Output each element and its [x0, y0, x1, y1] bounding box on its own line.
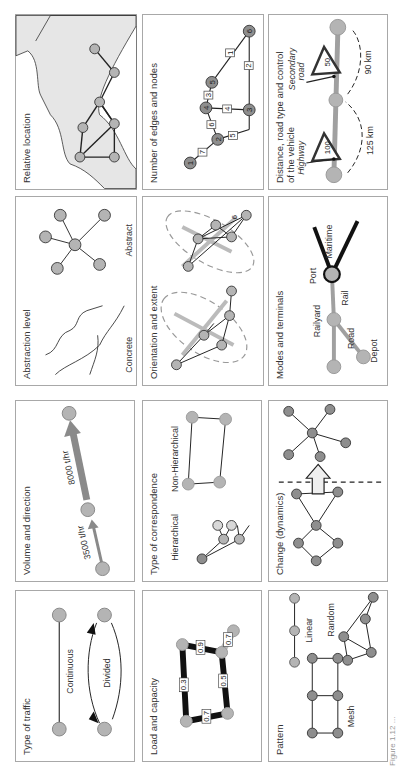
node-label: 4	[202, 105, 211, 110]
railyard-label: Railyard	[312, 305, 322, 338]
load-label: 0.5	[219, 675, 228, 687]
panel-modes-terminals: Modes and terminals Port Maritime Rail R…	[268, 196, 388, 386]
abstract-label: Abstract	[124, 224, 134, 257]
linear-label: Linear	[304, 618, 314, 643]
panel-abstraction-level: Abstraction level Concrete Abstract	[15, 196, 137, 386]
node-label: 5	[208, 80, 217, 85]
load-label: 0.7	[202, 711, 211, 722]
edge-label: 6	[207, 122, 216, 127]
depot-label: Depot	[369, 339, 379, 363]
concrete-road-lines	[46, 306, 125, 375]
secondary-distance: 90 km	[363, 50, 373, 74]
distance-graphics: 125 km 90 km 100 50 Highway Secondary ro…	[269, 15, 387, 189]
maritime-label: Maritime	[324, 225, 334, 259]
panel-volume-direction: Volume and direction 3500 t/hr 8000 t/hr	[15, 400, 135, 582]
panel-distance-road-type: Distance, road type and control of the v…	[268, 14, 388, 190]
svg-text:6: 6	[230, 214, 239, 219]
relative-location-map	[16, 15, 136, 189]
panel-pattern: Pattern Mesh Linear	[268, 590, 388, 762]
panel-load-capacity: Load and capacity 0.3 0.7 0.5 0.9 0.	[142, 590, 262, 762]
secondary-label-2: road	[296, 62, 306, 81]
secondary-speed: 50	[323, 57, 332, 66]
highway-label: Highway	[296, 140, 306, 174]
divided-label: Divided	[102, 658, 112, 688]
figure-caption: Figure 1.12 ...	[388, 717, 397, 766]
hierarchical-label: Hierarchical	[170, 514, 180, 561]
non-hierarchical-label: Non-Hierarchical	[170, 426, 180, 492]
modes-graphics: Port Maritime Rail Railyard Road Depot	[269, 197, 387, 385]
random-label: Random	[326, 603, 336, 636]
node-label: 1	[186, 161, 195, 165]
highway-distance: 125 km	[365, 126, 375, 155]
edge-label: 5	[228, 133, 237, 138]
pattern-graphics: Mesh Linear Random	[269, 591, 387, 761]
load-label: 0.3	[179, 679, 188, 691]
node-label: 2	[214, 137, 223, 141]
secondary-label-1: Secondary	[287, 47, 297, 90]
continuous-label: Continuous	[65, 648, 75, 693]
correspondence-graphics: Hierarchical Non-Hierarchical	[143, 401, 261, 581]
numbered-graph: 7 6 5 4 3 2 1 1 2 3 4 5 6	[143, 15, 263, 189]
edge-label: 4	[223, 106, 232, 111]
node-label: 3	[245, 107, 254, 112]
figure-stage: Relative location Abstractio	[0, 0, 400, 776]
edge-label: 7	[198, 150, 207, 154]
change-arrow-icon	[306, 464, 330, 494]
panel-relative-location: Relative location	[15, 14, 137, 190]
edge-label: 1	[226, 51, 235, 55]
panel-change-dynamics: Change (dynamics)	[268, 400, 388, 582]
panel-type-correspondence: Type of correspondence Hierarchical Non-…	[142, 400, 262, 582]
orientation-graphics: 6	[143, 197, 263, 385]
traffic-graphics: Continuous Divided	[16, 591, 134, 761]
panel-type-of-traffic: Type of traffic Continuous Divided	[15, 590, 135, 762]
port-label: Port	[308, 267, 318, 284]
panel-orientation-extent: Orientation and extent	[142, 196, 264, 386]
volume-graphics: 3500 t/hr 8000 t/hr	[16, 401, 134, 581]
abstraction-graphics: Concrete Abstract	[16, 197, 136, 385]
edge-label: 2	[244, 63, 253, 67]
load-label: 0.9	[196, 642, 205, 653]
panel-number-edges-nodes: Number of edges and nodes 7 6 5 4 3 2	[142, 14, 264, 190]
load-graphics: 0.3 0.7 0.5 0.9 0.7	[143, 591, 261, 761]
rail-label: Rail	[340, 290, 350, 305]
node-label: 6	[245, 28, 254, 33]
flow-label-1: 3500 t/hr	[75, 524, 93, 560]
highway-speed: 100	[323, 140, 332, 154]
mesh-label: Mesh	[346, 705, 356, 727]
road-label: Road	[346, 328, 356, 349]
concrete-label: Concrete	[124, 337, 134, 373]
change-graphics	[269, 401, 387, 581]
edge-label: 3	[204, 92, 213, 97]
load-label: 0.7	[224, 634, 233, 645]
